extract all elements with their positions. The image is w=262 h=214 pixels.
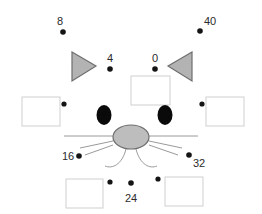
cat-face-diagram: 84040163224: [0, 0, 262, 214]
mouth-curve-2: [136, 149, 157, 167]
dot-label-4: 4: [107, 52, 113, 64]
dot-unlabeled-3[interactable]: [107, 179, 112, 184]
dot-8[interactable]: [60, 29, 66, 35]
box-bottom-right[interactable]: [165, 177, 203, 206]
dot-0[interactable]: [152, 66, 158, 72]
dot-label-24: 24: [125, 192, 137, 204]
dot-label-32: 32: [193, 157, 205, 169]
dot-unlabeled-1[interactable]: [61, 101, 66, 106]
dot-label-16: 16: [62, 150, 74, 162]
dot-4[interactable]: [107, 66, 113, 72]
eye-right: [158, 105, 173, 125]
dot-40[interactable]: [197, 28, 203, 34]
mouth-curve-1: [105, 149, 126, 167]
dot-label-0: 0: [152, 52, 158, 64]
box-top-center[interactable]: [131, 76, 170, 105]
dot-24[interactable]: [128, 180, 134, 186]
eye-left: [97, 105, 112, 125]
dot-unlabeled-2[interactable]: [199, 101, 204, 106]
box-bottom-left[interactable]: [66, 179, 103, 208]
ear-right: [168, 52, 192, 81]
ear-left: [72, 52, 96, 81]
nose: [113, 125, 149, 149]
dot-unlabeled-4[interactable]: [155, 176, 160, 181]
dot-label-8: 8: [57, 15, 63, 27]
dot-label-40: 40: [204, 15, 216, 27]
diagram-canvas: 84040163224: [0, 0, 262, 214]
box-left[interactable]: [22, 97, 60, 126]
box-right[interactable]: [206, 97, 244, 126]
dot-32[interactable]: [186, 152, 192, 158]
dot-16[interactable]: [76, 153, 82, 159]
